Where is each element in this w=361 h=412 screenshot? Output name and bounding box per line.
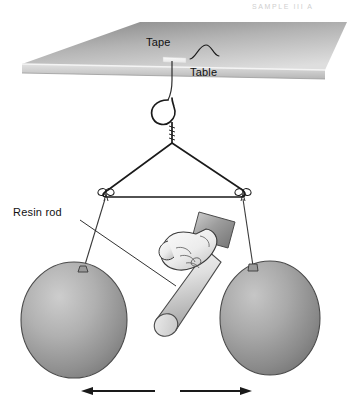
arrow-left	[81, 387, 155, 395]
table-group	[22, 22, 347, 79]
hanger-body	[103, 143, 245, 197]
hand-holding-rod	[159, 212, 235, 270]
scan-artifact-text: SAMPLE III A	[252, 3, 314, 10]
balloon-left-body	[21, 262, 127, 378]
balloon-right	[220, 261, 320, 375]
hanger-knot-right	[234, 187, 252, 201]
table-label: Table	[190, 66, 217, 78]
tape-label: Tape	[146, 36, 171, 48]
hanger-knot-left	[97, 187, 115, 201]
balloon-right-body	[220, 261, 320, 375]
balloon-string-left	[84, 199, 105, 268]
balloon-string-right	[243, 199, 253, 266]
arrow-right	[180, 387, 252, 395]
tape-group	[163, 57, 186, 63]
balloon-left-knot	[78, 266, 88, 272]
arrow-left-head	[81, 387, 93, 395]
hanger-hook	[152, 98, 175, 124]
balloon-left	[21, 262, 127, 378]
coat-hanger-group	[97, 98, 252, 201]
resin-rod-label: Resin rod	[13, 206, 62, 218]
balloon-right-knot	[248, 264, 258, 271]
arrow-right-head	[240, 387, 252, 395]
physics-figure: SAMPLE III A Tape Table	[0, 0, 361, 412]
tape-strip	[163, 57, 186, 63]
repulsion-arrows	[81, 387, 252, 395]
